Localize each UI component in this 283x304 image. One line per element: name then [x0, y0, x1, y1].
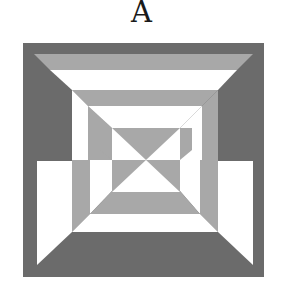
pattern-shapes: [23, 43, 264, 277]
top-light-band: [34, 54, 253, 70]
top-white-band: [50, 70, 237, 90]
bottom-white-band: [72, 214, 218, 232]
top-inner-light-trapezoid: [72, 90, 218, 106]
geometric-pattern-figure: [0, 0, 283, 304]
